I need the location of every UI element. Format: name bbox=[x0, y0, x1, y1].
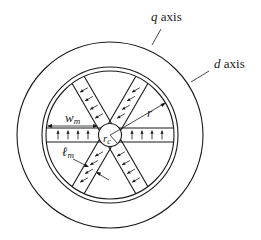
r-label: r bbox=[147, 105, 153, 120]
wm-symbol: w bbox=[65, 110, 74, 125]
d-axis-label: d axis bbox=[214, 56, 245, 71]
lm-leader-arrow-2 bbox=[96, 172, 101, 176]
magnetization-arrowhead bbox=[150, 131, 153, 134]
d-axis-leader bbox=[191, 71, 209, 82]
magnetization-arrowhead bbox=[130, 131, 133, 134]
magnet-edge bbox=[108, 76, 135, 123]
magnetization-arrowhead bbox=[66, 131, 69, 134]
wm-subscript: m bbox=[74, 116, 81, 126]
magnetization-arrowhead bbox=[160, 131, 163, 134]
rc-radius-line bbox=[110, 130, 120, 136]
d-axis-text: axis bbox=[221, 56, 245, 71]
rotor-diagram: q axis d axis wm ℓm r rc bbox=[0, 0, 261, 240]
q-axis-label: q axis bbox=[151, 9, 182, 24]
rc-radius-line-2 bbox=[110, 135, 117, 143]
lm-subscript: m bbox=[67, 150, 74, 160]
magnetization-arrowhead bbox=[86, 131, 89, 134]
q-axis-text: axis bbox=[158, 9, 182, 24]
r-symbol: r bbox=[147, 105, 153, 120]
r-arrowhead bbox=[161, 102, 167, 107]
magnetization-arrowhead bbox=[76, 131, 79, 134]
rc-subscript: c bbox=[107, 137, 111, 146]
magnetization-arrowhead bbox=[56, 131, 59, 134]
magnet-edge bbox=[84, 146, 111, 193]
magnetization-arrowhead bbox=[140, 131, 143, 134]
rc-label: rc bbox=[103, 132, 111, 146]
lm-label: ℓm bbox=[62, 144, 74, 160]
magnet-edge bbox=[72, 139, 99, 186]
wm-label: wm bbox=[65, 110, 81, 126]
q-axis-leader bbox=[152, 29, 161, 45]
wm-arrow-left bbox=[47, 124, 52, 128]
